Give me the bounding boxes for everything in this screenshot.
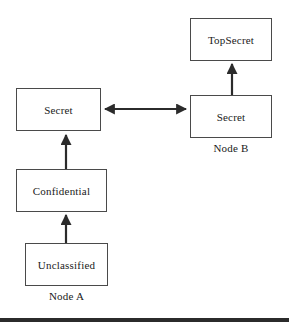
node-topsecret[interactable]: TopSecret [190,18,272,61]
node-confidential[interactable]: Confidential [16,169,107,212]
node-unclassified[interactable]: Unclassified [25,243,108,286]
node-secret-node-b[interactable]: Secret [190,95,272,138]
bottom-divider [0,318,289,322]
group-label-node-b: Node B [190,142,272,154]
group-label-node-a: Node A [25,290,108,302]
node-secret-node-a[interactable]: Secret [16,88,101,131]
diagram-canvas: TopSecret Secret Secret Confidential Unc… [0,0,289,324]
